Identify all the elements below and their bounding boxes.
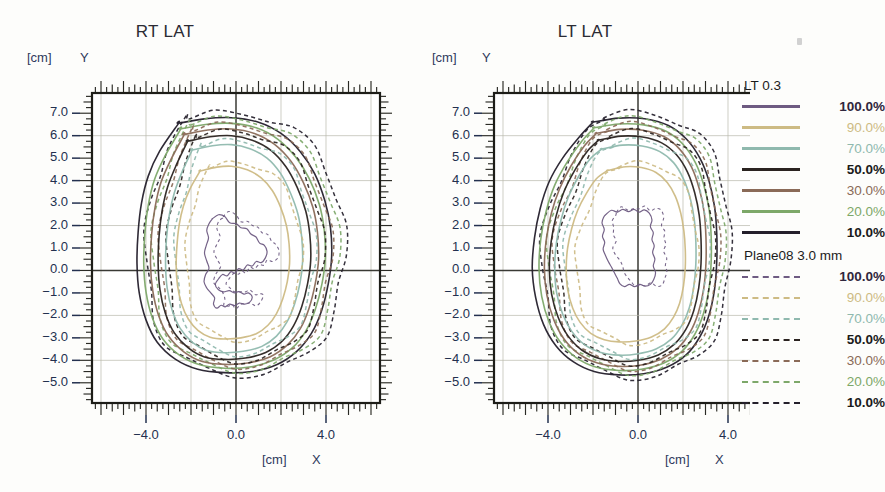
legend-line-swatch-icon bbox=[742, 168, 800, 171]
y-tick-label: −2.0 bbox=[422, 306, 470, 321]
legend-row-1-1[interactable]: 90.0% bbox=[742, 287, 885, 308]
legend-row-1-6[interactable]: 10.0% bbox=[742, 392, 885, 413]
legend-row-1-2[interactable]: 70.0% bbox=[742, 308, 885, 329]
x-tick-label: 4.0 bbox=[698, 427, 758, 442]
legend-line-swatch-icon bbox=[742, 402, 800, 404]
x-tick-label: 0.0 bbox=[608, 427, 668, 442]
y-tick-label: 2.0 bbox=[20, 217, 68, 232]
y-tick-label: 0.0 bbox=[20, 261, 68, 276]
y-tick-label: 6.0 bbox=[422, 127, 470, 142]
y-tick-label: 5.0 bbox=[422, 149, 470, 164]
y-tick-label: 3.0 bbox=[20, 194, 68, 209]
legend-line-swatch-icon bbox=[742, 276, 800, 278]
legend-label: 50.0% bbox=[806, 162, 885, 177]
y-tick-label: −4.0 bbox=[422, 351, 470, 366]
legend-label: 30.0% bbox=[806, 183, 885, 198]
y-tick-label: −3.0 bbox=[20, 329, 68, 344]
legend-row-0-4[interactable]: 30.0% bbox=[742, 180, 885, 201]
legend-label: 50.0% bbox=[806, 332, 885, 347]
y-tick-label: 7.0 bbox=[20, 104, 68, 119]
legend-row-1-5[interactable]: 20.0% bbox=[742, 371, 885, 392]
legend-row-1-3[interactable]: 50.0% bbox=[742, 329, 885, 350]
legend-line-swatch-icon bbox=[742, 147, 800, 150]
legend-row-0-0[interactable]: 100.0% bbox=[742, 96, 885, 117]
y-tick-label: 6.0 bbox=[20, 127, 68, 142]
legend-line-swatch-icon bbox=[742, 210, 800, 213]
legend-label: 90.0% bbox=[806, 290, 885, 305]
x-tick-label: −4.0 bbox=[116, 427, 176, 442]
y-tick-label: 7.0 bbox=[422, 104, 470, 119]
legend-label: 20.0% bbox=[806, 374, 885, 389]
legend-row-0-3[interactable]: 50.0% bbox=[742, 159, 885, 180]
y-tick-label: 1.0 bbox=[422, 239, 470, 254]
figure-root: RT LAT [cm] Y [cm] X 7.06.05.04.03.02.01… bbox=[0, 0, 885, 492]
y-tick-label: −2.0 bbox=[20, 306, 68, 321]
legend-row-1-4[interactable]: 30.0% bbox=[742, 350, 885, 371]
scan-speck bbox=[797, 38, 802, 45]
y-tick-label: −5.0 bbox=[422, 374, 470, 389]
legend-label: 70.0% bbox=[806, 311, 885, 326]
legend-line-swatch-icon bbox=[742, 189, 800, 192]
legend-line-swatch-icon bbox=[742, 126, 800, 129]
legend-label: 10.0% bbox=[806, 225, 885, 240]
legend-line-swatch-icon bbox=[742, 339, 800, 341]
y-tick-label: −1.0 bbox=[20, 284, 68, 299]
legend-row-1-0[interactable]: 100.0% bbox=[742, 266, 885, 287]
y-tick-label: 2.0 bbox=[422, 217, 470, 232]
legend-label: 10.0% bbox=[806, 395, 885, 410]
legend-group-title-1: Plane08 3.0 mm bbox=[744, 248, 885, 263]
y-tick-label: 3.0 bbox=[422, 194, 470, 209]
legend-label: 70.0% bbox=[806, 141, 885, 156]
y-tick-label: 4.0 bbox=[422, 172, 470, 187]
legend-row-0-6[interactable]: 10.0% bbox=[742, 222, 885, 243]
legend-line-swatch-icon bbox=[742, 360, 800, 362]
y-tick-label: −5.0 bbox=[20, 374, 68, 389]
y-tick-label: 1.0 bbox=[20, 239, 68, 254]
y-tick-label: 0.0 bbox=[422, 261, 470, 276]
y-tick-label: −1.0 bbox=[422, 284, 470, 299]
y-tick-label: 5.0 bbox=[20, 149, 68, 164]
legend-row-0-2[interactable]: 70.0% bbox=[742, 138, 885, 159]
legend-row-0-5[interactable]: 20.0% bbox=[742, 201, 885, 222]
legend-group-title-0: LT 0.3 bbox=[744, 78, 885, 93]
y-tick-label: −4.0 bbox=[20, 351, 68, 366]
legend-line-swatch-icon bbox=[742, 297, 800, 299]
legend-label: 30.0% bbox=[806, 353, 885, 368]
isodose-legend: LT 0.3100.0%90.0%70.0%50.0%30.0%20.0%10.… bbox=[742, 78, 885, 413]
legend-label: 20.0% bbox=[806, 204, 885, 219]
legend-line-swatch-icon bbox=[742, 231, 800, 234]
legend-label: 90.0% bbox=[806, 120, 885, 135]
y-tick-label: 4.0 bbox=[20, 172, 68, 187]
legend-line-swatch-icon bbox=[742, 381, 800, 383]
legend-label: 100.0% bbox=[806, 99, 885, 114]
panel-lt-lat: LT LAT [cm] Y [cm] X 7.06.05.04.03.02.01… bbox=[420, 0, 750, 492]
y-tick-label: −3.0 bbox=[422, 329, 470, 344]
legend-line-swatch-icon bbox=[742, 318, 800, 320]
x-tick-label: 0.0 bbox=[206, 427, 266, 442]
legend-row-0-1[interactable]: 90.0% bbox=[742, 117, 885, 138]
x-tick-label: 4.0 bbox=[296, 427, 356, 442]
panel-rt-lat: RT LAT [cm] Y [cm] X 7.06.05.04.03.02.01… bbox=[0, 0, 430, 492]
legend-line-swatch-icon bbox=[742, 105, 800, 108]
x-tick-label: −4.0 bbox=[518, 427, 578, 442]
legend-label: 100.0% bbox=[806, 269, 885, 284]
